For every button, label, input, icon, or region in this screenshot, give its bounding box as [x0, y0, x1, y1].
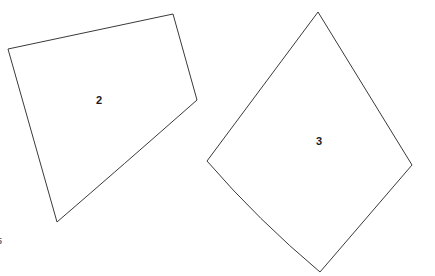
clipped-edge-glyph: 5 [0, 237, 2, 246]
shape-label-3: 3 [316, 136, 322, 147]
shapes-layer [0, 0, 435, 276]
shape-outline-3 [207, 12, 412, 272]
shape-label-2: 2 [96, 95, 102, 106]
shape-outline-2 [8, 14, 197, 222]
figure-canvas: 2 3 5 [0, 0, 435, 276]
